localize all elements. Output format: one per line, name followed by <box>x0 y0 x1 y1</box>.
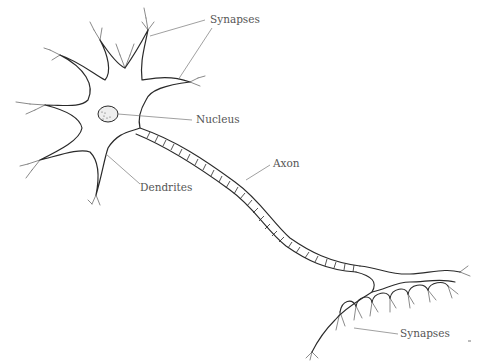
leader-lines <box>106 20 398 334</box>
synapses-top-label: Synapses <box>210 14 260 25</box>
neuron-illustration <box>0 0 483 361</box>
dendrites-label: Dendrites <box>140 182 192 193</box>
synapses-bottom-label: Synapses <box>400 328 450 339</box>
axon <box>136 128 360 272</box>
axon-label: Axon <box>273 158 300 169</box>
nucleus-label: Nucleus <box>196 114 240 125</box>
neuron-diagram: Synapses Nucleus Dendrites Axon Synapses <box>0 0 483 361</box>
axon-terminal <box>306 266 470 360</box>
myelin-segments <box>147 132 354 272</box>
nucleus <box>98 106 118 122</box>
